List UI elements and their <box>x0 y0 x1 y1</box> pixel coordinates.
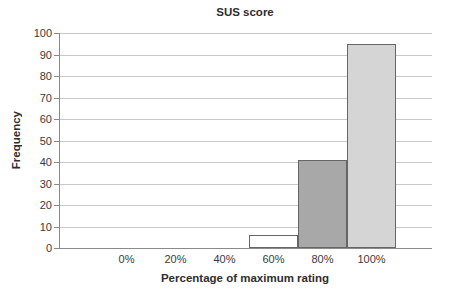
x-tick-label: 60% <box>262 254 284 265</box>
y-axis-tick <box>54 227 59 228</box>
y-axis-tick <box>54 55 59 56</box>
chart-title: SUS score <box>59 6 431 18</box>
bar-100pct <box>347 44 396 248</box>
y-tick-label: 70 <box>14 92 52 103</box>
x-tick-label: 80% <box>311 254 333 265</box>
y-tick-label: 50 <box>14 135 52 146</box>
x-tick-label: 20% <box>164 254 186 265</box>
y-axis-tick <box>54 76 59 77</box>
chart: SUS score Frequency 01020304050607080901… <box>0 0 452 301</box>
y-axis-tick <box>54 162 59 163</box>
y-axis-tick <box>54 33 59 34</box>
y-tick-label: 60 <box>14 114 52 125</box>
y-tick-label: 40 <box>14 157 52 168</box>
y-axis-tick <box>54 248 59 249</box>
bar-80pct <box>298 160 347 248</box>
y-tick-label: 80 <box>14 71 52 82</box>
y-axis-tick <box>54 141 59 142</box>
y-axis-tick <box>54 205 59 206</box>
y-tick-label: 100 <box>14 28 52 39</box>
bar-60pct <box>249 235 298 248</box>
y-tick-label: 0 <box>14 243 52 254</box>
y-axis-tick <box>54 184 59 185</box>
y-axis-tick <box>54 98 59 99</box>
x-tick-label: 0% <box>119 254 135 265</box>
x-axis-title: Percentage of maximum rating <box>59 272 431 284</box>
y-tick-label: 20 <box>14 200 52 211</box>
x-tick-label: 100% <box>357 254 385 265</box>
y-tick-label: 10 <box>14 221 52 232</box>
y-tick-label: 30 <box>14 178 52 189</box>
y-axis-tick <box>54 119 59 120</box>
plot-area: 01020304050607080901000%20%40%60%80%100% <box>59 33 432 249</box>
gridline <box>60 33 432 34</box>
y-tick-label: 90 <box>14 49 52 60</box>
x-tick-label: 40% <box>213 254 235 265</box>
